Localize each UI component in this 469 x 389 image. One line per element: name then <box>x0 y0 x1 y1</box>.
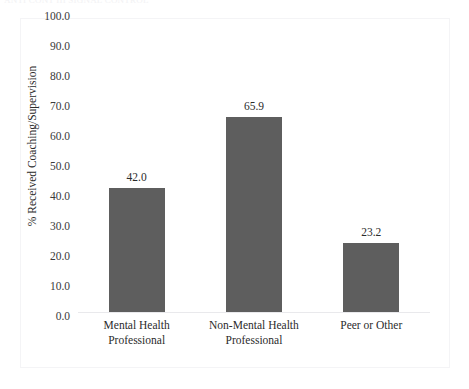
x-axis-baseline <box>78 312 430 313</box>
bar-group: 42.0 <box>78 15 195 312</box>
bar-group: 23.2 <box>313 15 430 312</box>
x-tick-label-line: Peer or Other <box>340 319 402 331</box>
y-axis-tick-labels: 100.0 90.0 80.0 70.0 60.0 50.0 40.0 30.0… <box>25 16 70 316</box>
bar-group: 65.9 <box>195 15 312 312</box>
bar-value-label: 42.0 <box>127 171 147 184</box>
bar-rect[interactable] <box>226 117 282 312</box>
bar-rect[interactable] <box>343 243 399 312</box>
x-tick-label-line: Professional <box>195 333 312 348</box>
bar-value-label: 23.2 <box>361 226 381 239</box>
bar-chart-figure: ANTI CONT III SIGNAL CONTROL % Received … <box>0 0 469 389</box>
y-tick-label: 30.0 <box>25 220 70 232</box>
clipped-header-text: ANTI CONT III SIGNAL CONTROL <box>4 0 244 5</box>
x-tick-label: Mental Health Professional <box>78 318 195 348</box>
y-tick-label: 60.0 <box>25 130 70 142</box>
y-tick-label: 50.0 <box>25 160 70 172</box>
x-tick-label: Peer or Other <box>313 318 430 333</box>
x-axis-tick-labels: Mental Health Professional Non-Mental He… <box>78 318 430 362</box>
x-tick-label-line: Professional <box>78 333 195 348</box>
y-tick-label: 20.0 <box>25 250 70 262</box>
y-tick-label: 0.0 <box>25 310 70 322</box>
y-tick-label: 100.0 <box>25 10 70 22</box>
plot-area: 65.9 23.2 42.0 <box>78 16 430 313</box>
x-tick-label-line: Non-Mental Health <box>209 319 299 331</box>
y-tick-label: 90.0 <box>25 40 70 52</box>
bar-value-label: 65.9 <box>244 100 264 113</box>
y-tick-label: 70.0 <box>25 100 70 112</box>
y-tick-label: 80.0 <box>25 70 70 82</box>
x-tick-label: Non-Mental Health Professional <box>195 318 312 348</box>
y-tick-label: 10.0 <box>25 280 70 292</box>
bar-rect[interactable] <box>109 188 165 312</box>
y-tick-label: 40.0 <box>25 190 70 202</box>
x-tick-label-line: Mental Health <box>104 319 170 331</box>
